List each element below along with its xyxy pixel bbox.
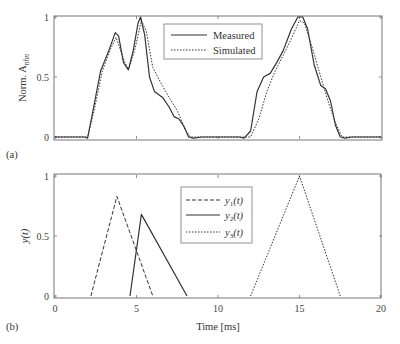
- panel-label-a: (a): [6, 149, 18, 161]
- legend-simulated-label: Simulated: [213, 45, 256, 56]
- svg-text:0: 0: [53, 303, 58, 314]
- y-axis-label-b: y(t): [19, 228, 31, 244]
- svg-text:0.5: 0.5: [37, 231, 50, 242]
- legend-b: y1(t) y2(t) y3(t): [181, 187, 252, 243]
- x-axis-label: Time [ms]: [196, 321, 240, 332]
- legend-a: Measured Simulated: [164, 24, 262, 59]
- series-line-y1t: [91, 196, 153, 296]
- figure: 00.51 Norm. Anhn (a) Measured Simulated …: [0, 0, 400, 344]
- svg-text:0: 0: [44, 132, 49, 143]
- svg-text:1: 1: [44, 12, 49, 23]
- svg-text:10: 10: [213, 303, 223, 314]
- panel-label-b: (b): [6, 321, 19, 333]
- svg-text:0: 0: [44, 291, 49, 302]
- svg-text:5: 5: [134, 303, 139, 314]
- svg-text:0.5: 0.5: [37, 72, 50, 83]
- svg-text:1: 1: [44, 171, 49, 182]
- svg-text:20: 20: [376, 303, 386, 314]
- legend-measured-label: Measured: [213, 30, 255, 41]
- panel-b: 00.5105101520 y(t) Time [ms] (b) y1(t) y…: [6, 171, 386, 334]
- series-line-y3t: [251, 176, 341, 296]
- svg-text:15: 15: [295, 303, 305, 314]
- y-axis-label-a: Norm. Anhn: [17, 54, 31, 102]
- panel-a: 00.51 Norm. Anhn (a) Measured Simulated: [6, 12, 382, 162]
